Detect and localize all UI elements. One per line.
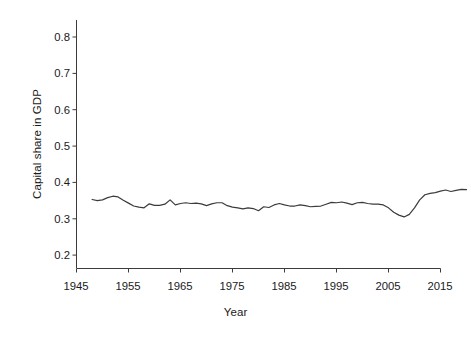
chart-figure: Capital share in GDP Year 0.2 0.3 0.4 0.… xyxy=(0,0,471,341)
plot-area xyxy=(0,0,471,341)
x-axis xyxy=(77,269,441,273)
y-axis xyxy=(73,20,77,268)
data-line-capital-share xyxy=(92,189,466,217)
